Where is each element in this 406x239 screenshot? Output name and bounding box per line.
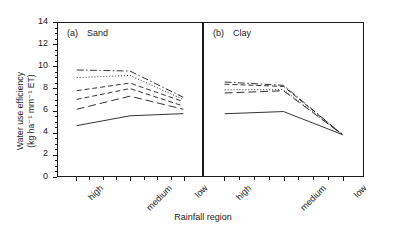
line-series-5-solid (225, 112, 343, 135)
line-series-2-dashed (225, 84, 343, 134)
line-series-6-solid (77, 114, 184, 126)
y-tick-label: 0 (8, 171, 48, 181)
y-tick-label: 14 (8, 16, 48, 26)
y-tick-label: 12 (8, 38, 48, 48)
panel-clay-lines (204, 23, 363, 176)
panel-clay: (b)Clay (203, 22, 364, 177)
x-tick-label-sand-medium: medium (144, 183, 174, 213)
panel-sand-lines (58, 23, 202, 176)
x-tick-label-sand-low: low (193, 183, 210, 200)
line-series-4-dashed (77, 89, 184, 106)
x-tick-sand-high (76, 177, 77, 181)
y-tick-label: 2 (8, 148, 48, 158)
x-tick-label-clay-low: low (352, 183, 369, 200)
x-tick-minor (103, 177, 104, 180)
line-series-1-dash-dot (225, 82, 343, 134)
x-tick-minor (89, 177, 90, 180)
x-tick-clay-low (343, 177, 344, 181)
panel-sand: (a)Sand (57, 22, 203, 177)
figure: Water use efficiency (kg ha⁻¹ mm⁻¹ ET) 0… (0, 0, 406, 239)
y-tick-label: 4 (8, 126, 48, 136)
x-tick-minor (171, 177, 172, 180)
x-tick-minor (328, 177, 329, 180)
x-tick-minor (313, 177, 314, 180)
x-tick-label-clay-medium: medium (298, 183, 328, 213)
x-tick-label-clay-high: high (234, 183, 253, 202)
y-tick-label: 6 (8, 104, 48, 114)
y-axis-ticks: 02468101214 (0, 22, 57, 177)
x-tick-minor (116, 177, 117, 180)
line-series-1-dash-dot (77, 70, 184, 97)
x-tick-minor (254, 177, 255, 180)
x-tick-minor (239, 177, 240, 180)
y-tick-label: 10 (8, 60, 48, 70)
x-tick-clay-high (224, 177, 225, 181)
y-tick-label: 8 (8, 82, 48, 92)
x-tick-sand-medium (130, 177, 131, 181)
x-tick-sand-low (184, 177, 185, 181)
line-series-5-long-dash (77, 96, 184, 109)
x-tick-clay-medium (284, 177, 285, 181)
x-tick-minor (144, 177, 145, 180)
x-axis-title: Rainfall region (0, 212, 406, 222)
x-tick-minor (269, 177, 270, 180)
x-tick-minor (298, 177, 299, 180)
line-series-3-dashed (77, 83, 184, 102)
x-tick-label-sand-high: high (86, 183, 105, 202)
x-tick-minor (157, 177, 158, 180)
y-tick-mark (53, 177, 57, 178)
